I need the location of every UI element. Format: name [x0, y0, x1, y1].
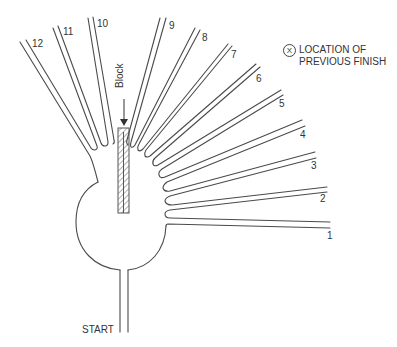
central-chamber-wall-left	[76, 182, 120, 270]
arm-2-3-junction	[165, 158, 327, 205]
block-arrow-head	[120, 119, 128, 126]
previous-finish-marker-icon: X	[283, 44, 296, 57]
arm-10-11-junction	[58, 18, 108, 146]
legend: X LOCATION OF PREVIOUS FINISH	[283, 44, 386, 68]
arm-label-9: 9	[169, 21, 175, 31]
start-label: START	[82, 324, 114, 335]
arm-3-4-junction	[163, 126, 315, 191]
arm-label-6: 6	[256, 74, 262, 84]
arm-label-8: 8	[202, 33, 208, 43]
arm-label-11: 11	[63, 27, 73, 37]
arm-label-10: 10	[97, 19, 108, 29]
arm-label-1: 1	[327, 231, 333, 241]
legend-line-2: PREVIOUS FINISH	[299, 56, 386, 68]
arm-8-9-junction	[131, 18, 196, 147]
arm-10-wall	[93, 17, 114, 144]
central-chamber-wall-lower-right	[128, 226, 166, 270]
arm-label-7: 7	[231, 50, 237, 60]
legend-line-1: LOCATION OF	[299, 44, 386, 56]
arm-label-3: 3	[311, 161, 317, 171]
arm-7-8-junction	[138, 30, 228, 151]
arm-label-4: 4	[300, 130, 306, 140]
arm-label-2: 2	[320, 194, 326, 204]
arm-label-12: 12	[32, 39, 43, 49]
block-label: Block	[114, 64, 125, 88]
arm-12-wall	[20, 42, 98, 182]
arm-label-5: 5	[279, 99, 285, 109]
arm-9-wall	[127, 18, 160, 145]
arm-1-wall	[166, 224, 330, 228]
legend-text: LOCATION OF PREVIOUS FINISH	[299, 44, 386, 68]
